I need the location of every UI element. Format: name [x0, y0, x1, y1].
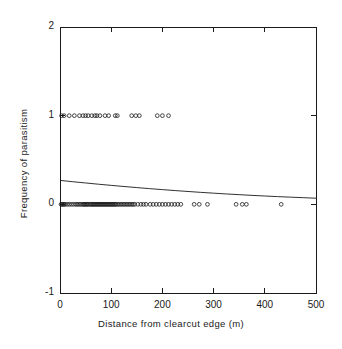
x-tick-label: 300: [194, 299, 234, 310]
logistic-fit-curve: [60, 180, 316, 198]
data-points: [59, 114, 283, 206]
axis-ticks: [60, 27, 316, 293]
x-tick-label: 400: [245, 299, 285, 310]
x-tick-label: 100: [91, 299, 131, 310]
y-tick-label: 1: [32, 109, 54, 120]
y-axis-title: Frequency of parasitism: [18, 79, 29, 249]
x-axis-title: Distance from clearcut edge (m): [0, 318, 342, 329]
x-tick-label: 0: [40, 299, 80, 310]
figure-container: Frequency of parasitism Distance from cl…: [0, 0, 342, 349]
x-tick-label: 500: [296, 299, 336, 310]
y-tick-label: -1: [32, 286, 54, 297]
y-tick-label: 2: [32, 20, 54, 31]
x-tick-label: 200: [142, 299, 182, 310]
y-tick-label: 0: [32, 197, 54, 208]
axes-frame: [60, 27, 316, 293]
